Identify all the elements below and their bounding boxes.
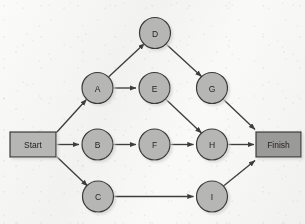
edge-a-to-d <box>109 44 145 78</box>
node-A[interactable]: A <box>82 73 113 104</box>
edge-layer <box>57 44 256 197</box>
node-B[interactable]: B <box>82 129 113 160</box>
node-A-label: A <box>95 84 101 94</box>
node-D[interactable]: D <box>140 18 171 49</box>
terminal-start[interactable]: Start <box>10 132 56 157</box>
node-D-label: D <box>152 29 158 39</box>
node-E-label: E <box>152 84 158 94</box>
node-F-label: F <box>152 140 157 150</box>
node-B-label: B <box>95 140 101 150</box>
edge-i-to-finish <box>224 161 256 187</box>
node-H-label: H <box>209 140 215 150</box>
node-I-label: I <box>211 192 213 202</box>
node-F[interactable]: F <box>139 129 170 160</box>
node-G[interactable]: G <box>197 73 228 104</box>
edge-start-to-c <box>57 157 88 187</box>
edge-e-to-h <box>166 99 202 133</box>
node-G-label: G <box>209 84 216 94</box>
terminal-finish[interactable]: Finish <box>256 132 301 157</box>
node-E[interactable]: E <box>139 73 170 104</box>
edge-start-to-a <box>57 100 87 133</box>
node-I[interactable]: I <box>197 181 228 212</box>
terminal-start-label: Start <box>24 140 43 150</box>
edge-g-to-finish <box>223 99 255 130</box>
node-C-label: C <box>95 192 101 202</box>
edge-d-to-g <box>166 44 202 77</box>
node-H[interactable]: H <box>197 129 228 160</box>
diagram-canvas: Start Finish D A E G B <box>0 0 305 224</box>
terminal-finish-label: Finish <box>267 140 290 150</box>
node-C[interactable]: C <box>83 181 114 212</box>
network-diagram-svg: Start Finish D A E G B <box>0 0 305 224</box>
